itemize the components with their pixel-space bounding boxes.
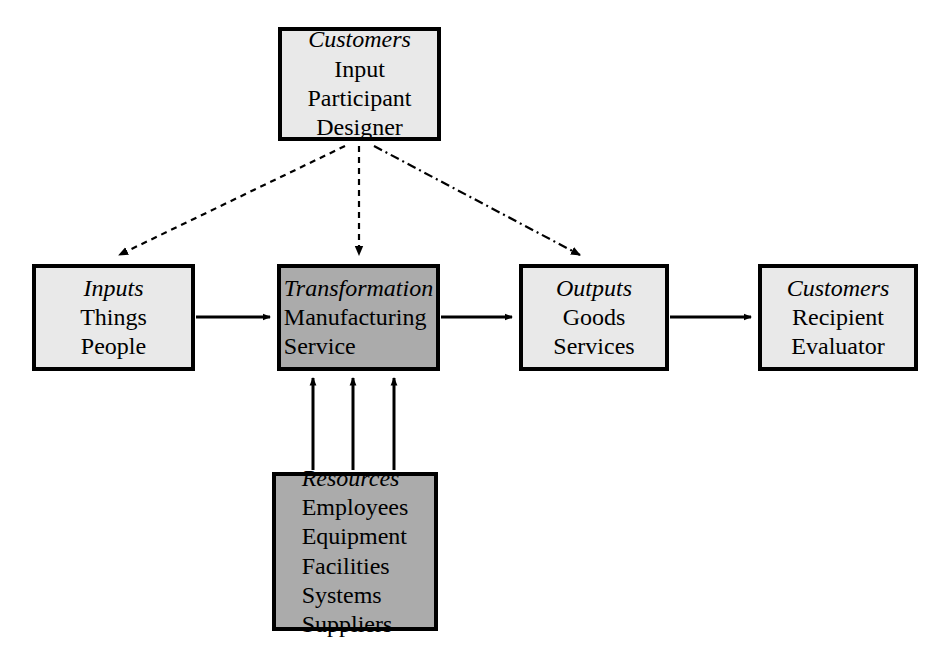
node-line: Evaluator <box>791 332 884 361</box>
node-line: Recipient <box>792 303 884 332</box>
node-line: Designer <box>316 113 403 142</box>
node-text-block: Inputs Things People <box>80 274 147 362</box>
node-line: People <box>81 332 146 361</box>
node-title: Resources <box>302 464 400 493</box>
node-title: Transformation <box>284 274 433 303</box>
node-text-block: Customers Recipient Evaluator <box>787 274 890 362</box>
node-title: Inputs <box>83 274 143 303</box>
node-text-block: Customers Input Participant Designer <box>308 25 412 142</box>
node-text-block: Transformation Manufacturing Service <box>284 274 433 362</box>
node-line: Things <box>80 303 147 332</box>
node-title: Customers <box>308 25 411 54</box>
node-line: Participant <box>308 84 412 113</box>
node-line: Employees <box>302 493 409 522</box>
node-inputs[interactable]: Inputs Things People <box>32 264 195 371</box>
node-title: Outputs <box>556 274 632 303</box>
node-line: Equipment <box>302 522 407 551</box>
node-transformation[interactable]: Transformation Manufacturing Service <box>277 264 440 371</box>
node-customers-top[interactable]: Customers Input Participant Designer <box>278 27 441 141</box>
node-line: Services <box>553 332 634 361</box>
node-line: Input <box>334 55 385 84</box>
node-line: Goods <box>563 303 626 332</box>
node-customers-end[interactable]: Customers Recipient Evaluator <box>758 264 918 371</box>
node-line: Suppliers <box>302 610 393 639</box>
node-outputs[interactable]: Outputs Goods Services <box>519 264 669 371</box>
node-resources[interactable]: Resources Employees Equipment Facilities… <box>272 472 438 631</box>
connector-customers-to-inputs <box>119 146 345 255</box>
node-line: Systems <box>302 581 382 610</box>
node-text-block: Resources Employees Equipment Facilities… <box>302 464 409 640</box>
node-line: Facilities <box>302 552 390 581</box>
process-flow-diagram: Customers Input Participant Designer Inp… <box>0 0 949 663</box>
connector-customers-to-outputs <box>374 146 580 255</box>
node-line: Manufacturing <box>284 303 427 332</box>
node-title: Customers <box>787 274 890 303</box>
node-line: Service <box>284 332 356 361</box>
node-text-block: Outputs Goods Services <box>553 274 634 362</box>
